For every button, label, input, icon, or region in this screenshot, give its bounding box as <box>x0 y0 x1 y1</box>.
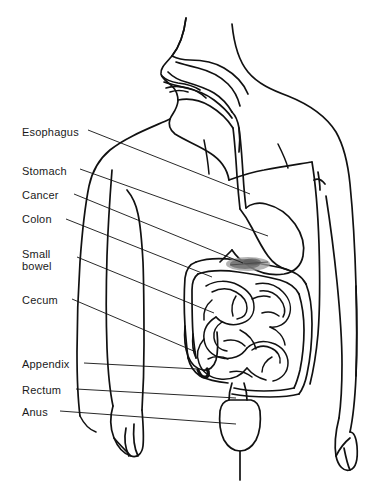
label-esophagus: Esophagus <box>22 126 79 138</box>
diagram-canvas <box>0 0 382 500</box>
leader-rectum <box>76 389 236 398</box>
label-small-bowel: Small bowel <box>22 248 52 272</box>
label-anus: Anus <box>22 406 48 418</box>
rectum-bulb <box>220 383 261 451</box>
label-colon: Colon <box>22 213 52 225</box>
leader-colon <box>66 219 212 277</box>
left-arm-inner <box>106 170 144 410</box>
leader-cancer <box>74 194 243 263</box>
label-cancer: Cancer <box>22 189 59 201</box>
head-profile <box>162 18 248 152</box>
label-appendix: Appendix <box>22 358 69 370</box>
leader-esophagus <box>88 130 250 194</box>
label-rectum: Rectum <box>22 384 61 396</box>
label-stomach: Stomach <box>22 165 67 177</box>
leader-cecum <box>72 299 196 352</box>
leader-appendix <box>84 363 197 369</box>
small-bowel-coil <box>198 281 291 381</box>
left-hand <box>111 406 144 457</box>
leader-small-bowel <box>77 257 214 313</box>
label-cecum: Cecum <box>22 294 58 306</box>
right-arm <box>314 172 357 470</box>
leader-anus <box>60 411 236 424</box>
anatomy-diagram: Esophagus Stomach Cancer Colon Small bow… <box>0 0 382 500</box>
